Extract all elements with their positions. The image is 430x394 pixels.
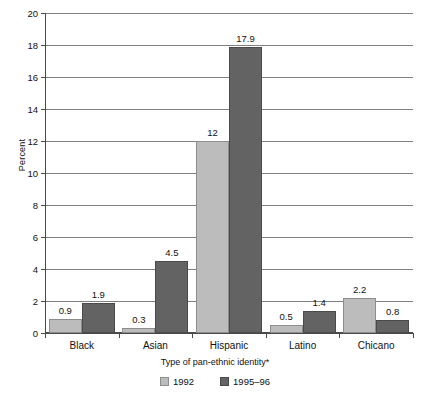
bar-value-label: 2.2 <box>353 284 366 295</box>
bar-value-label: 12 <box>207 127 218 138</box>
y-tick-label: 2 <box>33 296 38 307</box>
y-tick-label: 20 <box>27 8 38 19</box>
x-axis-category-label: Asian <box>143 340 168 351</box>
bar-value-label: 1.4 <box>312 297 325 308</box>
legend-label: 1995–96 <box>233 376 270 387</box>
bar <box>229 47 262 333</box>
bar <box>270 325 303 333</box>
x-tick-mark <box>119 333 120 338</box>
x-axis-category-label: Latino <box>289 340 316 351</box>
bar <box>49 319 82 333</box>
x-axis-title: Type of pan-ethnic identity* <box>0 357 430 367</box>
chart-legend: 19921995–96 <box>0 376 430 387</box>
legend-swatch <box>220 377 229 386</box>
bar <box>155 261 188 333</box>
y-tick-label: 0 <box>33 328 38 339</box>
bar-value-label: 1.9 <box>92 289 105 300</box>
x-axis-category-label: Hispanic <box>210 340 248 351</box>
y-tick-label: 14 <box>27 104 38 115</box>
legend-label: 1992 <box>173 376 194 387</box>
plot-area: 02468101214161820 0.91.90.34.51217.90.51… <box>45 13 413 333</box>
bar-value-label: 0.8 <box>386 306 399 317</box>
y-tick-label: 10 <box>27 168 38 179</box>
bar-chart: Percent 02468101214161820 0.91.90.34.512… <box>0 0 430 394</box>
y-axis-title: Percent <box>17 115 27 195</box>
y-tick-label: 12 <box>27 136 38 147</box>
y-tick-label: 18 <box>27 40 38 51</box>
x-axis-category-label: Chicano <box>358 340 395 351</box>
x-tick-mark <box>266 333 267 338</box>
x-axis-category-label: Black <box>70 340 94 351</box>
y-tick-label: 6 <box>33 232 38 243</box>
x-tick-mark <box>45 333 46 338</box>
legend-item: 1992 <box>160 376 194 387</box>
x-tick-mark <box>192 333 193 338</box>
bars-layer: 0.91.90.34.51217.90.51.42.20.8 <box>45 13 413 333</box>
x-tick-mark <box>339 333 340 338</box>
legend-item: 1995–96 <box>220 376 270 387</box>
bar <box>303 311 336 333</box>
bar-value-label: 4.5 <box>165 247 178 258</box>
bar-value-label: 0.5 <box>279 311 292 322</box>
bar <box>196 141 229 333</box>
bar-value-label: 0.3 <box>132 314 145 325</box>
bar-value-label: 17.9 <box>236 33 255 44</box>
x-tick-mark <box>413 333 414 338</box>
legend-swatch <box>160 377 169 386</box>
bar <box>343 298 376 333</box>
bar <box>82 303 115 333</box>
bar <box>376 320 409 333</box>
y-tick-label: 4 <box>33 264 38 275</box>
gridline <box>45 333 413 334</box>
y-tick-label: 16 <box>27 72 38 83</box>
y-tick-label: 8 <box>33 200 38 211</box>
bar-value-label: 0.9 <box>59 305 72 316</box>
bar <box>122 328 155 333</box>
